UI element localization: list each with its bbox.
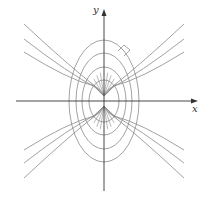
hyperbola-branch [24,39,104,96]
hyperbola-branch [24,106,104,163]
y-axis-label: y [93,5,99,15]
y-axis-arrow-icon [102,9,107,16]
hyperbola-branch [24,106,104,150]
confocal-conics-diagram [0,0,210,203]
hyperbola-branch [104,52,184,96]
hyperbola-branch [24,52,104,96]
hyperbola-branch [104,106,184,163]
hyperbola-branch [104,39,184,96]
hyperbola-branch [104,106,184,150]
x-axis-label: x [192,104,198,114]
